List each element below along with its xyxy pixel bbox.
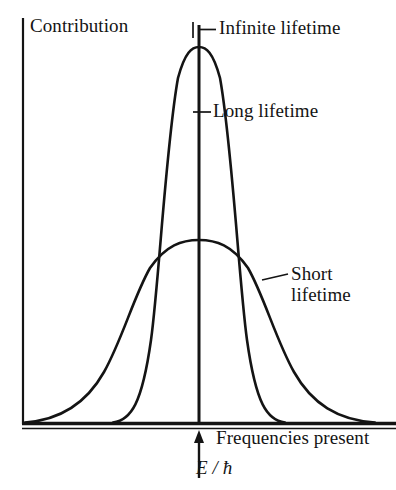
annotation-short-lifetime: Short lifetime — [291, 264, 351, 305]
annotation-long-lifetime: Long lifetime — [213, 101, 318, 122]
spectral-linewidth-figure: Contribution Infinite lifetime Long life… — [0, 0, 396, 490]
leader-line-short — [262, 274, 288, 280]
up-arrow-icon — [194, 430, 204, 443]
y-axis-title: Contribution — [30, 16, 128, 37]
x-axis-title: Frequencies present — [216, 428, 369, 449]
plot-canvas — [0, 0, 396, 490]
annotation-infinite-lifetime: Infinite lifetime — [219, 18, 340, 39]
center-frequency-label: E / ħ — [196, 458, 232, 479]
